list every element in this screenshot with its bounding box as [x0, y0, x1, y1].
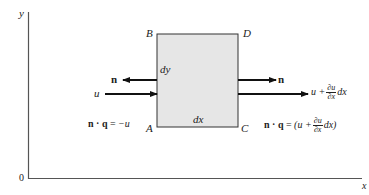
corner-d-label: D [243, 28, 251, 39]
right-eq-equals: = [286, 119, 292, 130]
left-flux-equation: n · q = −u [88, 119, 130, 129]
corner-c-label: C [241, 123, 248, 134]
right-flux-equation: n · q = (u +∂u∂xdx) [264, 117, 336, 134]
corner-b-label: B [146, 28, 153, 39]
x-axis-label: x [362, 181, 366, 191]
right-normal-label: n [278, 74, 284, 85]
left-normal-label: n [111, 74, 117, 85]
width-dx-label: dx [193, 114, 203, 125]
partial-derivative: ∂u∂x [326, 84, 336, 101]
left-eq-rhs: −u [118, 118, 130, 129]
right-flux-label: u +∂u∂xdx [311, 84, 347, 101]
partial-derivative: ∂u∂x [313, 117, 323, 134]
y-axis-label: y [19, 8, 24, 19]
corner-a-label: A [146, 123, 153, 134]
left-eq-equals: = [110, 118, 116, 129]
left-flux-label: u [94, 88, 100, 99]
right-eq-lhs: n · q [264, 119, 283, 130]
height-dy-label: dy [160, 64, 170, 75]
origin-label: 0 [19, 173, 24, 183]
left-eq-lhs: n · q [88, 118, 107, 129]
